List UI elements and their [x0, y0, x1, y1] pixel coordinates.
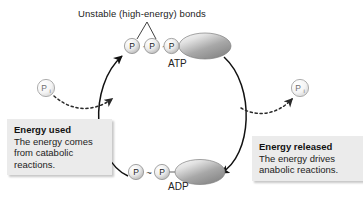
atp-molecule: P ~ P ~ P: [124, 33, 231, 59]
svg-text:~: ~: [146, 167, 152, 178]
svg-text:P: P: [41, 83, 47, 93]
svg-text:P: P: [159, 167, 165, 177]
callout-energy-released: Energy released The energy drives anabol…: [252, 136, 363, 181]
callout-right-body: The energy drives anabolic reactions.: [259, 153, 357, 176]
atp-phosphate-group-1: P: [124, 38, 139, 53]
bond-leader-lines: [137, 22, 156, 39]
svg-text:P: P: [133, 167, 139, 177]
atp-body-ellipse: [179, 33, 231, 59]
adp-phosphate-group-2: P: [154, 164, 169, 179]
svg-text:i: i: [50, 88, 51, 94]
atp-phosphate-group-2: P: [144, 38, 159, 53]
svg-text:P: P: [169, 41, 175, 51]
svg-text:P: P: [129, 41, 135, 51]
pi-right: P i: [291, 79, 308, 96]
pi-left: P i: [37, 79, 54, 96]
svg-text:P: P: [295, 83, 301, 93]
svg-text:i: i: [304, 88, 305, 94]
atp-label: ATP: [168, 58, 187, 69]
callout-energy-used: Energy used The energy comes from catabo…: [7, 119, 112, 175]
atp-phosphate-group-3: P: [164, 38, 179, 53]
adp-phosphate-group-1: P: [128, 164, 143, 179]
arc-arrow-atp-to-adp: [221, 57, 246, 173]
dashed-arrow-pi-in: [54, 96, 112, 108]
callout-left-heading: Energy used: [14, 124, 106, 136]
dashed-arrow-pi-out: [241, 99, 292, 114]
callout-right-heading: Energy released: [259, 141, 357, 153]
svg-text:P: P: [149, 41, 155, 51]
callout-left-body: The energy comes from catabolic reaction…: [14, 136, 106, 171]
high-energy-bonds-annotation: Unstable (high-energy) bonds: [78, 8, 206, 19]
adp-label: ADP: [168, 181, 189, 192]
